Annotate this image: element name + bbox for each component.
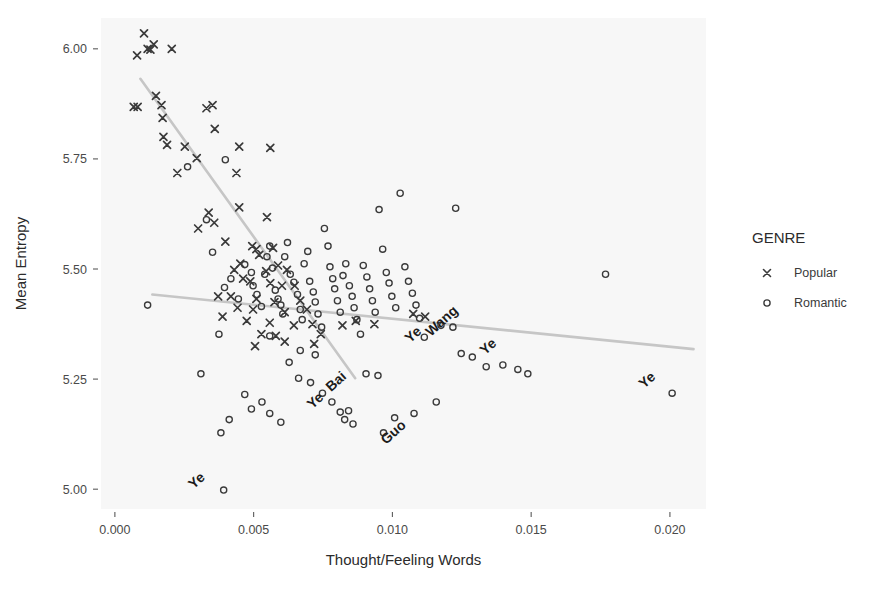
y-axis-tick-label: 6.00 [63, 42, 87, 56]
x-axis-title: Thought/Feeling Words [326, 551, 482, 568]
x-axis-tick-label: 0.015 [516, 523, 547, 537]
scatter-plot-figure: YeYeBaiGuoYeWangYeYe 0.0000.0050.0100.01… [0, 0, 892, 595]
y-axis-tick-label: 5.50 [63, 263, 87, 277]
y-axis-tick-label: 5.00 [63, 483, 87, 497]
y-axis-title: Mean Entropy [12, 216, 29, 310]
x-axis-tick-label: 0.010 [377, 523, 408, 537]
plot-canvas: YeYeBaiGuoYeWangYeYe 0.0000.0050.0100.01… [0, 0, 892, 595]
y-axis-tick-label: 5.25 [63, 373, 87, 387]
legend-item-label: Romantic [794, 296, 847, 310]
y-axis-tick-label: 5.75 [63, 152, 87, 166]
legend-title: GENRE [752, 229, 805, 246]
x-axis-tick-label: 0.020 [654, 523, 685, 537]
x-axis-tick-label: 0.005 [238, 523, 269, 537]
legend-item-label: Popular [794, 266, 837, 280]
x-axis-tick-label: 0.000 [99, 523, 130, 537]
